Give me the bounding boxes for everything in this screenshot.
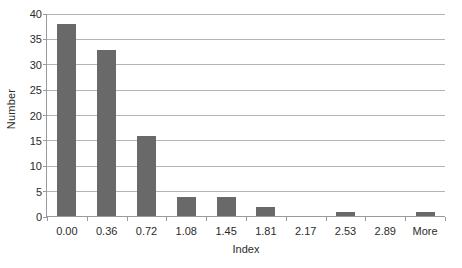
y-axis-tick-label: 5	[36, 186, 42, 197]
bar	[177, 197, 196, 217]
x-axis-tick-mark	[286, 217, 287, 221]
x-axis-tick-mark	[166, 217, 167, 221]
x-axis-tick-marks	[47, 217, 445, 222]
x-axis-tick-label: 0.36	[87, 223, 127, 239]
y-axis-title-text: Number	[5, 89, 17, 129]
y-axis-title: Number	[0, 0, 22, 218]
x-axis-tick-label: 0.72	[127, 223, 167, 239]
x-axis-tick-mark	[405, 217, 406, 221]
y-axis-tick-label: 15	[30, 135, 42, 146]
x-axis-tick-label: 2.17	[286, 223, 326, 239]
x-axis-tick-mark	[87, 217, 88, 221]
y-axis-tick-mark	[43, 166, 47, 167]
y-axis-tick-label: 35	[30, 34, 42, 45]
bar	[137, 136, 156, 217]
y-axis-tick-label: 20	[30, 110, 42, 121]
bar-slot	[286, 14, 326, 217]
bar-slot	[47, 14, 87, 217]
x-axis-tick-label: 2.53	[326, 223, 366, 239]
x-axis-tick-mark	[365, 217, 366, 221]
bar-slot	[326, 14, 366, 217]
y-axis-tick-mark	[43, 39, 47, 40]
y-axis-tick-labels: 0510152025303540	[20, 10, 42, 218]
x-axis-tick-label: 0.00	[47, 223, 87, 239]
x-axis-tick-label: 1.81	[246, 223, 286, 239]
bar-slot	[405, 14, 445, 217]
x-axis-tick-mark	[47, 217, 48, 221]
x-axis-tick-label: 1.45	[206, 223, 246, 239]
x-axis-tick-mark	[326, 217, 327, 221]
bar-slot	[166, 14, 206, 217]
bar-slot	[87, 14, 127, 217]
x-axis-tick-mark	[206, 217, 207, 221]
x-axis-tick-mark	[246, 217, 247, 221]
bar-slot	[365, 14, 405, 217]
x-axis-tick-label: 2.89	[365, 223, 405, 239]
bars-layer	[47, 14, 445, 217]
x-axis-tick-labels: 0.000.360.721.081.451.812.172.532.89More	[47, 223, 445, 239]
histogram-chart: Number 0510152025303540 0.000.360.721.08…	[0, 0, 462, 268]
bar-slot	[127, 14, 167, 217]
bar-slot	[246, 14, 286, 217]
y-axis-tick-label: 30	[30, 59, 42, 70]
bar	[97, 50, 116, 217]
bar	[57, 24, 76, 217]
x-axis-tick-mark	[127, 217, 128, 221]
bar-slot	[206, 14, 246, 217]
y-axis-tick-label: 40	[30, 9, 42, 20]
y-axis-tick-mark	[43, 191, 47, 192]
y-axis-tick-mark	[43, 140, 47, 141]
x-axis-tick-mark	[445, 217, 446, 221]
y-axis-tick-label: 10	[30, 161, 42, 172]
y-axis-tick-mark	[43, 14, 47, 15]
x-axis-title: Index	[47, 243, 445, 255]
bar	[217, 197, 236, 217]
y-axis-tick-label: 25	[30, 85, 42, 96]
x-axis-tick-label: 1.08	[166, 223, 206, 239]
y-axis-tick-mark	[43, 115, 47, 116]
y-axis-tick-mark	[43, 90, 47, 91]
x-axis-tick-label: More	[405, 223, 445, 239]
y-axis-tick-mark	[43, 64, 47, 65]
y-axis-tick-label: 0	[36, 212, 42, 223]
plot-area	[47, 14, 445, 217]
